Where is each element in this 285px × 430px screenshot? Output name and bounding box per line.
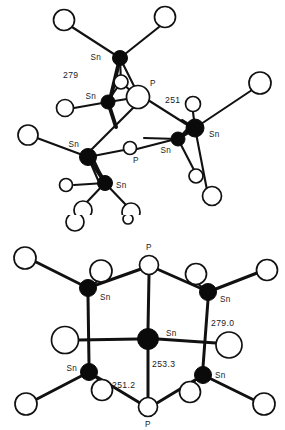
atom-label-sn: Sn: [85, 92, 96, 101]
atom-label-sn: Sn: [66, 364, 77, 373]
ligand-atom: [122, 203, 140, 215]
atom-label-sn: Sn: [100, 293, 111, 302]
atom-label-sn: Sn: [215, 371, 226, 380]
phosphorus-atom: [127, 86, 150, 109]
ligand-atom: [18, 125, 38, 145]
stray-marks-group: [66, 215, 133, 231]
stray-mark: [123, 215, 133, 224]
ligand-atom: [52, 327, 79, 354]
ligand-atom: [155, 7, 176, 28]
tin-atom: [80, 149, 97, 166]
ligand-atom: [186, 264, 207, 285]
atom-label-sn: Sn: [166, 329, 177, 338]
atom-label-p: P: [145, 420, 151, 429]
ligand-atom: [92, 380, 113, 401]
figure-root: Sn P Sn Sn P Sn Sn Sn 279 251: [0, 0, 285, 430]
ligand-atom: [253, 393, 275, 415]
ligand-atom: [249, 72, 271, 94]
atom-label-p: P: [133, 156, 139, 165]
atom-label-p: P: [150, 79, 156, 88]
molecular-structure-bottom: P Sn Sn Sn Sn Sn P 279.0 253.3 251.2: [0, 215, 285, 430]
phosphorus-atom: [114, 75, 128, 89]
atom-label-sn: Sn: [209, 130, 220, 139]
molecular-structure-top: Sn P Sn Sn P Sn Sn Sn 279 251: [0, 0, 285, 215]
tin-atom: [200, 284, 217, 301]
ligand-atom: [54, 10, 75, 31]
tin-atom: [195, 367, 212, 384]
phosphorus-atom: [139, 398, 158, 417]
tin-atom: [98, 176, 113, 191]
ligand-atom: [257, 260, 278, 281]
ligand-atom: [216, 332, 242, 358]
stray-mark: [66, 215, 84, 231]
tin-atom: [171, 132, 185, 146]
ligand-atom: [189, 169, 203, 183]
tin-atom: [81, 364, 98, 381]
tin-atom: [138, 329, 159, 350]
tin-atom: [186, 119, 204, 137]
phosphorus-atom: [140, 256, 159, 275]
ligand-atom: [203, 187, 222, 206]
atom-label-sn: Sn: [220, 295, 231, 304]
ligand-atom: [14, 247, 36, 269]
ligand-atom: [186, 97, 201, 112]
tin-atom: [113, 51, 128, 66]
atom-label-sn: Sn: [116, 181, 127, 190]
tin-atom: [80, 280, 97, 297]
ligand-atom: [15, 393, 37, 415]
atom-label-sn: Sn: [90, 53, 101, 62]
ligand-atom: [74, 201, 92, 215]
ligand-atom: [57, 100, 74, 117]
bond-distance-label: 253.3: [152, 359, 176, 369]
atom-label-sn: Sn: [160, 146, 171, 155]
atom-label-sn: Sn: [68, 140, 79, 149]
bond-distance-label: 251: [165, 95, 181, 105]
tin-atom: [101, 95, 115, 109]
atom-label-p: P: [146, 243, 152, 252]
bond-distance-label: 279.0: [211, 318, 235, 328]
bond-distance-label: 251.2: [112, 380, 136, 390]
phosphorus-atom: [124, 142, 137, 155]
bond-distance-label: 279: [63, 70, 79, 80]
ligand-atom: [60, 179, 73, 192]
ligand-atom: [180, 382, 201, 403]
ligand-atom: [90, 260, 112, 282]
